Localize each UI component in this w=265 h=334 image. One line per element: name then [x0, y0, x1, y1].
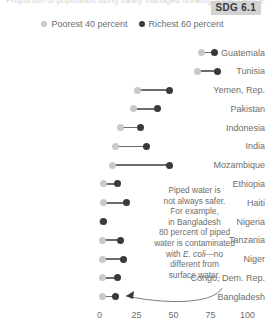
table-row: Mozambique [0, 158, 265, 172]
data-point-richest [114, 274, 121, 281]
x-axis-tick-0: 0 [97, 310, 102, 320]
data-point-richest [114, 180, 121, 187]
data-point-poorest [100, 199, 107, 206]
data-point-poorest [100, 180, 107, 187]
data-point-richest [154, 105, 161, 112]
row-label-bangladesh: Bangladesh [169, 290, 265, 304]
annotation-line: not always safer. [126, 196, 263, 207]
dumbbell-connector [113, 164, 169, 166]
annotation-line: with E. coli—no [126, 249, 263, 260]
table-row: Indonesia [0, 121, 265, 135]
data-point-poorest [99, 293, 106, 300]
x-axis-tick-25: 25 [131, 310, 141, 320]
data-point-richest [143, 143, 150, 150]
x-axis-tick-100: 100 [240, 310, 255, 320]
data-point-poorest [194, 68, 201, 75]
row-label-indonesia: Indonesia [169, 121, 265, 135]
row-label-pakistan: Pakistan [169, 102, 265, 116]
table-row: Pakistan [0, 102, 265, 116]
x-axis-tick-75: 75 [205, 310, 215, 320]
annotation-line: different from [126, 259, 263, 270]
annotation-note: Piped water isnot always safer.For examp… [126, 185, 263, 280]
data-point-poorest [109, 162, 116, 169]
chart-container: Proportion of population using safely ma… [0, 0, 265, 334]
table-row: Guatemala [0, 46, 265, 60]
annotation-line: water is contaminated [126, 238, 263, 249]
data-point-richest [137, 124, 144, 131]
data-point-poorest [99, 256, 106, 263]
row-label-mozambique: Mozambique [169, 158, 265, 172]
row-label-yemen-rep: Yemen, Rep. [169, 83, 265, 97]
dumbbell-connector [138, 89, 169, 91]
plot-area: GuatemalaTunisiaYemen, Rep.PakistanIndon… [0, 0, 265, 334]
data-point-richest [100, 218, 107, 225]
x-axis-tick-50: 50 [168, 310, 178, 320]
data-point-poorest [112, 143, 119, 150]
table-row: Bangladesh [0, 290, 265, 304]
table-row: India [0, 139, 265, 153]
data-point-poorest [134, 87, 141, 94]
table-row: Tunisia [0, 64, 265, 78]
data-point-poorest [117, 124, 124, 131]
annotation-line: Piped water is [126, 185, 263, 196]
data-point-richest [117, 237, 124, 244]
data-point-poorest [99, 237, 106, 244]
row-label-india: India [169, 139, 265, 153]
data-point-richest [166, 162, 173, 169]
data-point-poorest [130, 105, 137, 112]
data-point-poorest [99, 274, 106, 281]
data-point-richest [166, 87, 173, 94]
table-row: Yemen, Rep. [0, 83, 265, 97]
annotation-line: surface water. [126, 270, 263, 281]
annotation-line: For example, [126, 206, 263, 217]
annotation-line: 80 percent of piped [126, 227, 263, 238]
data-point-richest [112, 293, 119, 300]
annotation-line: in Bangladesh [126, 217, 263, 228]
dumbbell-connector [116, 146, 147, 148]
